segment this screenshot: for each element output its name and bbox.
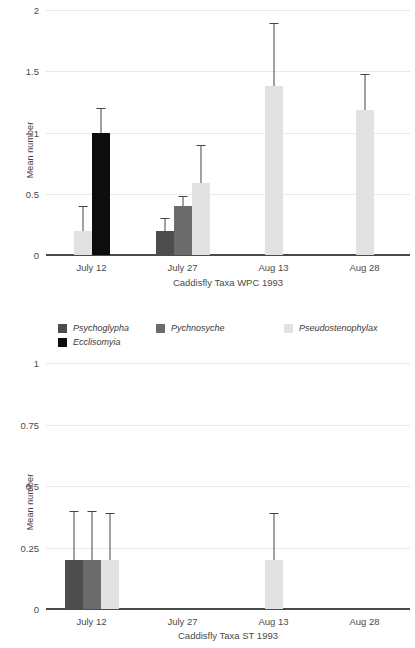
legend-item-ecclisomyia: Ecclisomyia (58, 337, 121, 347)
bar-slot (65, 363, 83, 609)
legend-item-pseudostenophylax: Pseudostenophylax (284, 323, 378, 333)
legend: Psychoglypha Pychnosyche Pseudostenophyl… (58, 321, 408, 349)
bar-slot (74, 10, 92, 255)
legend-label-psychoglypha: Psychoglypha (73, 323, 129, 333)
bar-slot (156, 10, 174, 255)
bar[interactable] (265, 560, 283, 609)
x-axis-label-bottom: Caddisfly Taxa ST 1993 (46, 630, 410, 641)
error-bar (200, 145, 201, 183)
error-bar-cap (160, 218, 169, 219)
y-axis-tick: 0 (34, 250, 39, 261)
error-bar-cap (360, 74, 369, 75)
bar-group: July 12 (46, 10, 137, 255)
legend-swatch-pseudostenophylax (284, 324, 293, 333)
bar[interactable] (92, 133, 110, 256)
error-bar-cap (196, 145, 205, 146)
bar-group: July 27 (137, 363, 228, 609)
bar-group: Aug 13 (228, 10, 319, 255)
bar-group-bars (46, 363, 137, 609)
bar[interactable] (265, 86, 283, 255)
y-axis-tick: 0.25 (21, 542, 40, 553)
y-axis-tick: 0.5 (26, 188, 39, 199)
error-bar (100, 108, 101, 133)
legend-swatch-psychoglypha (58, 324, 67, 333)
chart-st-1993: Mean number 00.250.50.751July 12July 27A… (0, 355, 415, 648)
chart-wpc-1993: Mean number 00.511.52July 12July 27Aug 1… (0, 0, 415, 300)
plot-area-top: 00.511.52July 12July 27Aug 13Aug 28 (46, 10, 410, 255)
bar-group: Aug 13 (228, 363, 319, 609)
bar-group-bars (319, 363, 410, 609)
bar[interactable] (101, 560, 119, 609)
legend-row-1: Psychoglypha Pychnosyche Pseudostenophyl… (58, 321, 408, 335)
bar-slot (265, 10, 283, 255)
legend-label-pseudostenophylax: Pseudostenophylax (299, 323, 378, 333)
bar[interactable] (192, 183, 210, 255)
error-bar (364, 74, 365, 111)
error-bar-cap (78, 206, 87, 207)
y-axis-tick: 1 (34, 127, 39, 138)
x-axis-tick: July 27 (137, 262, 228, 273)
legend-label-pychnosyche: Pychnosyche (171, 323, 225, 333)
bar-group-bars (46, 10, 137, 255)
bar[interactable] (83, 560, 101, 609)
error-bar-cap (178, 196, 187, 197)
bar-group: Aug 28 (319, 10, 410, 255)
error-bar-cap (69, 511, 78, 512)
y-axis-tick: 1 (34, 358, 39, 369)
x-axis-tick: Aug 13 (228, 262, 319, 273)
error-bar (182, 196, 183, 206)
bar-group-bars (137, 363, 228, 609)
y-axis-tick: 0.75 (21, 419, 40, 430)
legend-row-2: Ecclisomyia (58, 335, 408, 349)
bar[interactable] (74, 231, 92, 256)
error-bar (82, 206, 83, 231)
error-bar-cap (96, 108, 105, 109)
bar[interactable] (174, 206, 192, 255)
bar-group-bars (319, 10, 410, 255)
error-bar (273, 513, 274, 560)
plot-area-bottom: 00.250.50.751July 12July 27Aug 13Aug 28 (46, 363, 410, 609)
bar[interactable] (65, 560, 83, 609)
x-axis-tick: July 27 (137, 616, 228, 627)
bar-slot (92, 10, 110, 255)
x-axis-tick: Aug 13 (228, 616, 319, 627)
error-bar (273, 23, 274, 85)
caddisfly-figure: Mean number 00.511.52July 12July 27Aug 1… (0, 0, 415, 648)
y-axis-tick: 0 (34, 604, 39, 615)
error-bar-cap (269, 513, 278, 514)
legend-item-pychnosyche: Pychnosyche (156, 323, 284, 333)
bar-slot (192, 10, 210, 255)
bar-slot (83, 363, 101, 609)
legend-label-ecclisomyia: Ecclisomyia (73, 337, 121, 347)
y-axis-tick: 0.5 (26, 481, 39, 492)
error-bar (164, 218, 165, 230)
x-axis-tick: Aug 28 (319, 262, 410, 273)
legend-swatch-ecclisomyia (58, 338, 67, 347)
error-bar-cap (269, 23, 278, 24)
bar-group: July 27 (137, 10, 228, 255)
bar-group: July 12 (46, 363, 137, 609)
error-bar (109, 513, 110, 560)
error-bar-cap (87, 511, 96, 512)
bar-group-bars (137, 10, 228, 255)
legend-item-psychoglypha: Psychoglypha (58, 323, 156, 333)
error-bar (91, 511, 92, 560)
legend-swatch-pychnosyche (156, 324, 165, 333)
y-axis-tick: 1.5 (26, 66, 39, 77)
x-axis-tick: July 12 (46, 616, 137, 627)
bar[interactable] (156, 231, 174, 256)
bar-group-bars (228, 10, 319, 255)
x-axis-tick: July 12 (46, 262, 137, 273)
error-bar (73, 511, 74, 560)
x-axis-label-top: Caddisfly Taxa WPC 1993 (46, 277, 410, 288)
bar-slot (356, 10, 374, 255)
bar-group-bars (228, 363, 319, 609)
bar-slot (174, 10, 192, 255)
bar[interactable] (356, 110, 374, 255)
error-bar-cap (105, 513, 114, 514)
bar-slot (101, 363, 119, 609)
y-axis-tick: 2 (34, 5, 39, 16)
bar-slot (265, 363, 283, 609)
x-axis-tick: Aug 28 (319, 616, 410, 627)
bar-group: Aug 28 (319, 363, 410, 609)
